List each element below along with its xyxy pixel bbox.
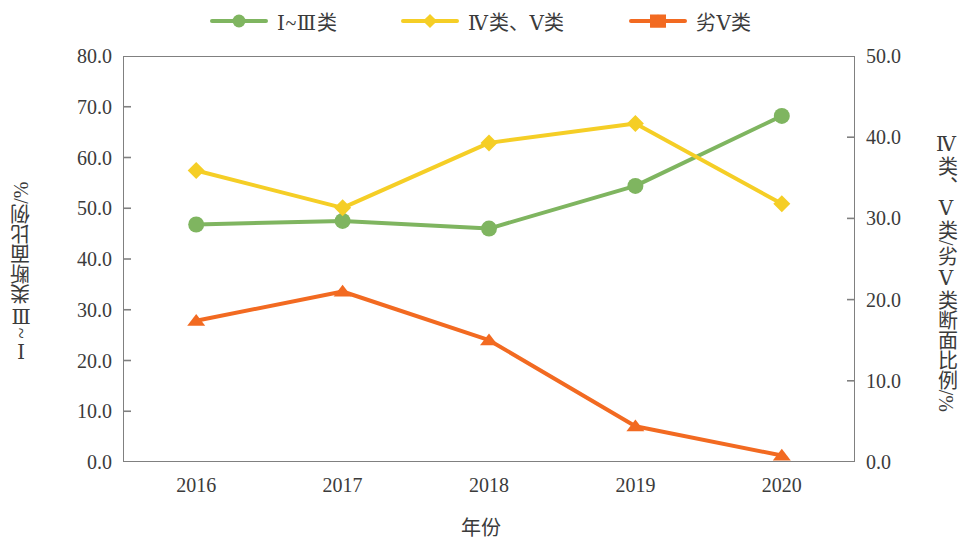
- right-tick-30.0: 30.0: [866, 207, 901, 230]
- x-axis-tick-labels: 20162017201820192020: [123, 474, 855, 504]
- triangle-icon: [650, 15, 666, 28]
- left-axis-title: Ⅰ~Ⅲ类断面比例/%: [6, 181, 35, 362]
- chart-container: Ⅰ~Ⅲ类 Ⅳ类、Ⅴ类 劣Ⅴ类 0.010.020.030.040.050.060…: [0, 0, 962, 543]
- x-axis-title: 年份: [0, 512, 962, 541]
- chart-legend: Ⅰ~Ⅲ类 Ⅳ类、Ⅴ类 劣Ⅴ类: [0, 4, 962, 38]
- x-tick-2018: 2018: [469, 474, 509, 497]
- diamond-icon: [423, 14, 437, 28]
- circle-icon: [233, 15, 246, 28]
- right-tick-0.0: 0.0: [866, 451, 891, 474]
- x-tick-2019: 2019: [615, 474, 655, 497]
- legend-label-lei1-3: Ⅰ~Ⅲ类: [277, 7, 337, 36]
- right-tick-10.0: 10.0: [866, 369, 901, 392]
- right-tick-50.0: 50.0: [866, 45, 901, 68]
- legend-label-lielei5: 劣Ⅴ类: [696, 7, 752, 36]
- right-tick-20.0: 20.0: [866, 288, 901, 311]
- legend-item-lei1-3[interactable]: Ⅰ~Ⅲ类: [210, 7, 337, 36]
- legend-item-lielei5[interactable]: 劣Ⅴ类: [629, 7, 752, 36]
- legend-symbol-lielei5: [629, 12, 687, 30]
- left-tick-50.0: 50.0: [77, 197, 112, 220]
- x-tick-2020: 2020: [762, 474, 802, 497]
- x-tick-2016: 2016: [176, 474, 216, 497]
- left-tick-80.0: 80.0: [77, 45, 112, 68]
- legend-item-lei4-5[interactable]: Ⅳ类、Ⅴ类: [401, 7, 565, 36]
- left-tick-30.0: 30.0: [77, 298, 112, 321]
- legend-label-lei4-5: Ⅳ类、Ⅴ类: [468, 7, 565, 36]
- left-tick-60.0: 60.0: [77, 146, 112, 169]
- legend-symbol-lei4-5: [401, 12, 459, 30]
- left-tick-70.0: 70.0: [77, 95, 112, 118]
- right-axis-title: Ⅳ类、Ⅴ类/劣Ⅴ类断面比例/%: [932, 132, 961, 412]
- right-tick-40.0: 40.0: [866, 126, 901, 149]
- left-tick-40.0: 40.0: [77, 248, 112, 271]
- legend-symbol-lei1-3: [210, 12, 268, 30]
- left-tick-10.0: 10.0: [77, 400, 112, 423]
- plot-area: [123, 56, 855, 462]
- x-tick-2017: 2017: [323, 474, 363, 497]
- left-tick-20.0: 20.0: [77, 349, 112, 372]
- left-tick-0.0: 0.0: [87, 451, 112, 474]
